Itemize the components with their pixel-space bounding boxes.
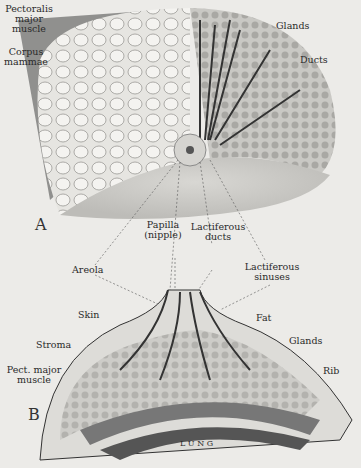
- label-stroma: Stroma: [36, 340, 71, 350]
- label-glands-b: Glands: [289, 336, 322, 346]
- label-pectoralis-major-muscle: Pectoralis major muscle: [4, 4, 54, 34]
- label-papilla: Papilla (nipple): [135, 220, 191, 240]
- panel-letter-a: A: [35, 215, 47, 234]
- label-ducts: Ducts: [300, 55, 328, 65]
- label-corpus-mammae: Corpus mammae: [2, 47, 50, 67]
- panel-letter-b: B: [28, 405, 40, 424]
- anatomical-plate: Pectoralis major muscle Corpus mammae Gl…: [0, 0, 361, 468]
- label-lung: L U N G: [180, 439, 213, 449]
- label-rib: Rib: [323, 366, 339, 376]
- label-glands-a: Glands: [276, 21, 309, 31]
- label-areola: Areola: [72, 265, 103, 275]
- label-lactiferous-sinuses: Lactiferous sinuses: [240, 262, 304, 282]
- label-fat: Fat: [256, 313, 271, 323]
- label-lactiferous-ducts: Lactiferous ducts: [188, 222, 248, 242]
- label-skin: Skin: [78, 310, 99, 320]
- label-pect-major-muscle: Pect. major muscle: [6, 365, 62, 385]
